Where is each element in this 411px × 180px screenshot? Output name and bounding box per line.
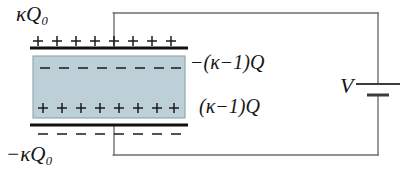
- label-bottom-plate-charge: −κQ₀: [6, 144, 53, 165]
- capacitor-dielectric-figure: κQ₀ −κQ₀ −(κ−1)Q (κ−1)Q V: [0, 0, 411, 180]
- plus-sign-icon: [71, 36, 81, 46]
- plus-sign-icon: [33, 36, 43, 46]
- battery-symbol: [356, 84, 400, 95]
- label-battery-voltage: V: [340, 75, 353, 97]
- plus-sign-icon: [90, 36, 100, 46]
- plus-sign-icon: [147, 36, 157, 46]
- label-dielectric-top-bound-charge: −(κ−1)Q: [190, 52, 264, 72]
- plus-sign-icon: [128, 36, 138, 46]
- label-top-plate-charge: κQ₀: [16, 4, 49, 25]
- plus-sign-icon: [52, 36, 62, 46]
- dielectric-slab: [33, 56, 185, 118]
- label-dielectric-bottom-bound-charge: (κ−1)Q: [199, 96, 260, 116]
- plus-sign-icon: [166, 36, 176, 46]
- plus-sign-icon: [109, 36, 119, 46]
- plus-row-above-top-plate: [33, 36, 176, 46]
